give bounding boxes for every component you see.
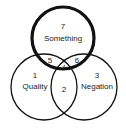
quality-number: 1	[33, 71, 38, 80]
intersection-5: 5	[48, 56, 53, 65]
something-number: 7	[61, 22, 66, 31]
negation-number: 3	[95, 71, 100, 80]
something-label: Something	[44, 34, 82, 43]
quality-label: Quality	[23, 82, 48, 91]
negation-label: Negation	[81, 82, 113, 91]
intersection-6: 6	[75, 56, 80, 65]
venn-diagram: 7 Something 1 Quality 3 Negation 2 5 6 4	[0, 0, 126, 134]
intersection-2: 2	[62, 85, 67, 94]
